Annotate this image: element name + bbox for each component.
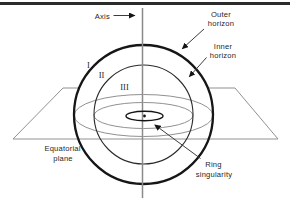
outer-horizon-circle [74, 45, 213, 184]
region-label-1: I [87, 60, 90, 70]
inner-horizon-label-line2: horizon [210, 51, 236, 60]
ring-singularity-label-line2: singularity [196, 170, 232, 179]
inner-horizon-label-line1: Inner [214, 42, 233, 51]
outer-horizon-arrow-icon [183, 29, 205, 49]
center-point-dot [143, 115, 146, 118]
plane-left-edge [13, 88, 63, 139]
inner-horizon-circle [94, 65, 193, 164]
ring-singularity-label-line1: Ring [205, 160, 221, 169]
region-label-3: III [120, 82, 129, 92]
equatorial-plane-outline [13, 88, 278, 139]
inner-horizon-arrow-icon [190, 58, 207, 77]
equatorial-plane-label-line1: Equatorial [44, 144, 80, 153]
diagram-canvas: Axis Outer horizon Inner horizon I II II… [0, 0, 290, 208]
top-border-rule [0, 2, 290, 5]
outer-horizon-label-line2: horizon [208, 19, 234, 28]
region-label-2: II [99, 70, 105, 80]
outer-horizon-label-line1: Outer [211, 10, 231, 19]
axis-label: Axis [95, 12, 110, 21]
black-hole-diagram: Axis Outer horizon Inner horizon I II II… [0, 0, 290, 208]
equatorial-plane-label-line2: plane [53, 154, 73, 163]
plane-right-edge [235, 88, 278, 139]
